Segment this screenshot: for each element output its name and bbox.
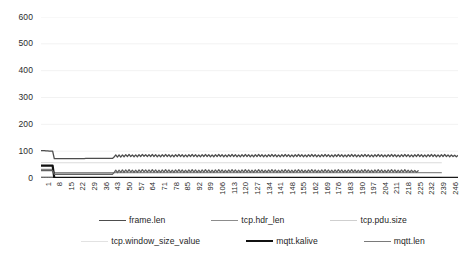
y-axis: 0100200300400500600 [0, 10, 38, 186]
series-line-frame-len [41, 151, 458, 159]
x-tick-label: 99 [207, 182, 215, 190]
x-tick-label: 134 [266, 182, 274, 195]
y-tick-label: 600 [19, 13, 33, 22]
legend-swatch [81, 241, 108, 242]
x-tick-label: 246 [452, 182, 460, 195]
x-tick-label: 155 [300, 182, 308, 195]
x-tick-label: 64 [149, 182, 157, 190]
x-tick-label: 78 [173, 182, 181, 190]
legend-swatch [330, 220, 357, 221]
x-tick-label: 1 [45, 182, 53, 186]
x-axis: 1815222936435057647178859299106113120127… [41, 179, 458, 207]
legend-item-tcp-pdu-size[interactable]: tcp.pdu.size [330, 210, 406, 230]
legend-swatch [246, 240, 273, 242]
x-tick-label: 92 [196, 182, 204, 190]
legend-swatch [364, 241, 391, 242]
x-tick-label: 8 [56, 182, 64, 186]
x-tick-label: 183 [347, 182, 355, 195]
y-tick-label: 200 [19, 120, 33, 129]
y-tick-label: 300 [19, 93, 33, 102]
legend-item-tcp-hdr-len[interactable]: tcp.hdr_len [211, 210, 284, 230]
line-chart: 0100200300400500600 18152229364350576471… [0, 0, 465, 262]
x-tick-label: 232 [428, 182, 436, 195]
y-tick-label: 500 [19, 39, 33, 48]
x-tick-label: 176 [335, 182, 343, 195]
x-tick-label: 141 [277, 182, 285, 195]
x-tick-label: 239 [440, 182, 448, 195]
legend-item-frame-len[interactable]: frame.len [99, 210, 165, 230]
series-lines [41, 151, 458, 178]
plot-area [41, 17, 458, 178]
x-tick-label: 148 [289, 182, 297, 195]
x-tick-label: 169 [324, 182, 332, 195]
x-tick-label: 127 [254, 182, 262, 195]
series-line-mqtt-len [41, 170, 418, 175]
legend-swatch [99, 220, 126, 221]
legend-row: tcp.window_size_valuemqtt.kalivemqtt.len [41, 231, 465, 251]
x-tick-label: 43 [114, 182, 122, 190]
x-tick-label: 162 [312, 182, 320, 195]
x-tick-label: 71 [161, 182, 169, 190]
y-tick-label: 100 [19, 147, 33, 156]
x-tick-label: 113 [231, 182, 239, 194]
x-tick-label: 197 [370, 182, 378, 195]
x-tick-label: 120 [242, 182, 250, 195]
legend-label: mqtt.len [394, 236, 425, 246]
legend-label: tcp.window_size_value [111, 236, 200, 246]
x-tick-label: 15 [68, 182, 76, 190]
legend-label: tcp.pdu.size [360, 215, 406, 225]
plot-svg [41, 17, 458, 178]
x-tick-label: 50 [126, 182, 134, 190]
legend-label: frame.len [129, 215, 165, 225]
x-tick-label: 57 [138, 182, 146, 190]
x-tick-label: 218 [405, 182, 413, 195]
x-tick-label: 29 [91, 182, 99, 190]
x-tick-label: 204 [382, 182, 390, 195]
x-tick-label: 36 [103, 182, 111, 190]
legend-item-tcp-window-size-value[interactable]: tcp.window_size_value [81, 231, 200, 251]
legend-label: tcp.hdr_len [241, 215, 284, 225]
x-tick-label: 22 [79, 182, 87, 190]
legend-label: mqtt.kalive [276, 236, 318, 246]
legend-swatch [211, 220, 238, 221]
gridlines [41, 17, 458, 178]
legend-item-mqtt-kalive[interactable]: mqtt.kalive [246, 231, 318, 251]
chart-legend: frame.lentcp.hdr_lentcp.pdu.size tcp.win… [41, 210, 465, 256]
y-tick-label: 400 [19, 66, 33, 75]
x-tick-label: 211 [393, 182, 401, 194]
legend-row: frame.lentcp.hdr_lentcp.pdu.size [41, 210, 465, 230]
y-tick-label: 0 [28, 174, 33, 183]
x-tick-label: 85 [184, 182, 192, 190]
x-tick-label: 106 [219, 182, 227, 195]
x-tick-label: 190 [359, 182, 367, 195]
legend-item-mqtt-len[interactable]: mqtt.len [364, 231, 425, 251]
x-tick-label: 225 [417, 182, 425, 195]
